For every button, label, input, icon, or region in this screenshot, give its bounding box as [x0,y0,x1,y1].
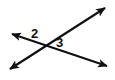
angle-diagram: 2 3 [0,0,115,80]
angle-label-2: 2 [31,27,38,40]
angle-label-3: 3 [56,36,63,49]
